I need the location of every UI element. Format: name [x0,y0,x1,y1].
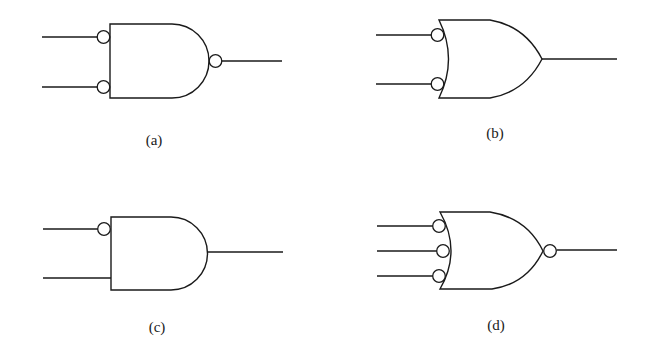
gate-d-or-inverted-inputs-nor: (d) [377,212,617,334]
gate-c-label: (c) [149,319,166,336]
gate-b-or-body [439,20,542,98]
gate-d-input-2-inversion-bubble-icon [437,245,450,258]
gate-d-input-1-inversion-bubble-icon [433,220,446,233]
gate-c-input-1-inversion-bubble-icon [98,223,111,236]
gate-d-output-inversion-bubble-icon [544,245,557,258]
gate-b-or-inverted-inputs: (b) [376,20,617,142]
gate-c-and-one-inverted-input: (c) [43,217,283,336]
gate-b-input-1-inversion-bubble-icon [431,29,444,42]
gate-a-input-2-inversion-bubble-icon [97,81,110,94]
gate-a-label: (a) [146,132,163,149]
logic-gates-diagram: (a) (b) (c) (d) [0,0,651,354]
gate-b-input-2-inversion-bubble-icon [431,78,444,91]
gate-a-and-body [110,24,209,98]
gate-d-input-3-inversion-bubble-icon [433,270,446,283]
gate-a-and-inverted-inputs-nand: (a) [42,24,282,149]
gate-d-or-body [440,212,543,289]
gate-a-output-inversion-bubble-icon [209,55,222,68]
gate-b-label: (b) [486,125,504,142]
gate-a-input-1-inversion-bubble-icon [97,31,110,44]
gate-d-label: (d) [487,317,505,334]
gate-c-and-body [111,217,207,290]
